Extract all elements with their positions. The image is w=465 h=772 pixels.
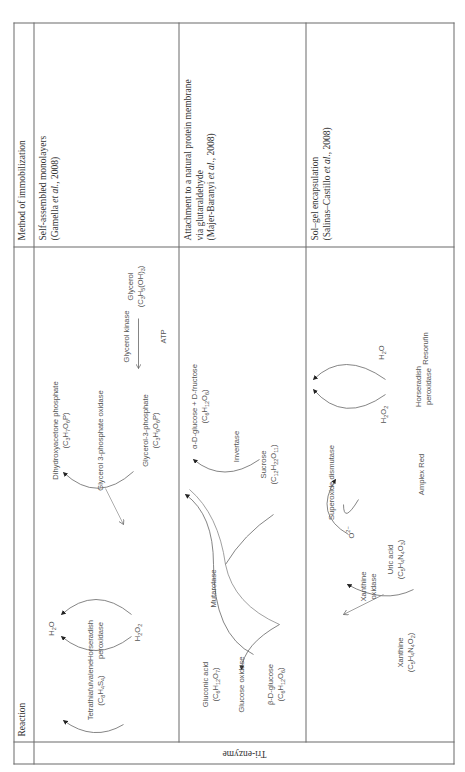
superoxide-dismutase-label: Superoxide dismutase	[326, 444, 336, 519]
tetrathiafulvalene-label: Tetrathiafulvalene(C8H4S4)	[86, 660, 105, 720]
alpha-glucose-fructose-label: α-D-glucose + D-fructose(C6H12O6)	[190, 364, 209, 449]
resorufin-label: Resorufin	[420, 332, 430, 365]
gluconic-acid-label: Gluconic acid(C6H12O7)	[201, 661, 220, 707]
h2o2-label-row3: H2O2	[378, 405, 388, 423]
xanthine-oxidase-label: Xanthineoxidase	[359, 571, 378, 601]
amplex-red-label: Amplex Red	[416, 453, 426, 494]
h2o2-label: H2O2	[132, 623, 142, 641]
hrp-label-1: Horseradishperoxidase	[86, 620, 105, 661]
glycerol-kinase-label: Glycerol kinase	[121, 310, 131, 362]
h2o-label-row3: H2O	[376, 345, 386, 359]
superoxide-label: O2−	[344, 526, 356, 538]
uric-acid-label: Uric acid(C5H4N4O3)	[386, 539, 405, 579]
g3po-label: Glycerol 3-phosphate oxidase	[95, 390, 105, 490]
reaction-arrows	[13, 22, 454, 764]
h2o-label: H2O	[46, 621, 56, 635]
sucrose-label: Sucrose(C12H22O11)	[259, 444, 278, 484]
g3p-label: Glycerol-3-phosphate(C3H9O6P)	[141, 394, 160, 467]
glucose-oxidase-label: Glucose oxidase	[236, 656, 246, 712]
hrp-label-3: Horseradishperoxidase	[414, 366, 433, 407]
glycerol-label: Glycerol(C3H5(OH)3)	[126, 265, 145, 307]
rotated-table: Reaction Method of immobilization Tri-en…	[13, 22, 454, 764]
atp-label: ATP	[158, 329, 168, 343]
mutarotase-label: Mutarotase	[208, 569, 218, 607]
invertase-label: Invertase	[231, 430, 241, 461]
beta-glucose-label: β-D-glucose(C6H12O6)	[266, 663, 285, 704]
dhap-label: Dihydroxyacetone phosphate(C3H7O6P)	[51, 381, 70, 479]
xanthine-label: Xanthine(C5H4N4O2)	[396, 632, 415, 672]
